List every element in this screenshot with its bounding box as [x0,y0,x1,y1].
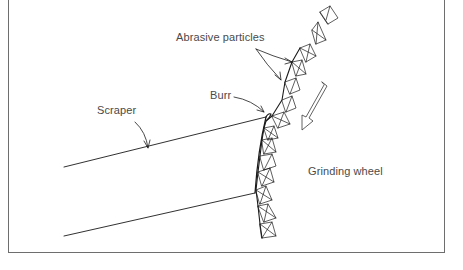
label-burr: Burr [210,89,231,101]
scraper-blade [64,114,271,236]
abrasive-leader-arrow-1 [256,49,292,62]
abrasive-particles [256,6,338,238]
abrasive-leader-arrow-2 [256,49,281,80]
label-grinding-wheel: Grinding wheel [308,165,383,177]
rotation-direction-arrow [302,82,327,130]
label-abrasive-particles: Abrasive particles [176,31,265,43]
burr-leader-arrow [234,97,264,112]
label-scraper: Scraper [97,104,136,116]
